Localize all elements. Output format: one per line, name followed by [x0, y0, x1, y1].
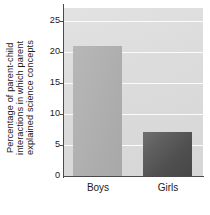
y-axis-title: Percentage of parent-child interactions …	[0, 0, 40, 196]
x-axis-label-boys: Boys	[87, 182, 109, 193]
y-tick-label-25: 25	[50, 16, 60, 25]
bar-boys	[73, 46, 122, 176]
plot-area	[64, 8, 203, 176]
gridline-25	[64, 21, 203, 22]
y-tick-label-10: 10	[50, 109, 60, 118]
x-axis-line	[63, 176, 204, 177]
y-axis-title-line-1: Percentage of parent-child	[5, 3, 15, 193]
y-tick-label-15: 15	[50, 78, 60, 87]
bar-girls	[143, 132, 192, 176]
y-axis-line	[63, 4, 64, 178]
y-tick-label-20: 20	[50, 47, 60, 56]
y-axis-title-line-3: explained science concepts	[25, 3, 35, 193]
bar-chart: Percentage of parent-child interactions …	[0, 0, 210, 215]
x-axis-label-girls: Girls	[158, 182, 179, 193]
y-tick-label-0: 0	[55, 171, 60, 180]
y-axis-tick-labels: 0 5 10 15 20 25	[38, 0, 60, 196]
